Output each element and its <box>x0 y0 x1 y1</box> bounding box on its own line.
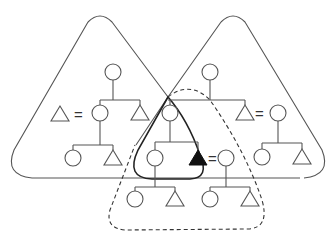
female-node-R-wife <box>270 105 286 121</box>
male-node-B1-m <box>166 191 184 206</box>
male-node-R-grand-m <box>293 149 311 164</box>
male-node-L-spouse <box>51 106 69 121</box>
male-node-L-son <box>131 105 149 120</box>
female-node-M-daughter <box>147 150 163 166</box>
marriage-sign-ego: = <box>208 150 217 167</box>
ego-descendants-boundary <box>109 89 264 230</box>
female-node-ego-wife <box>218 150 234 166</box>
female-node-B1-f <box>127 191 143 207</box>
female-node-L-daughter <box>92 105 108 121</box>
male-node-R-son <box>236 105 254 120</box>
female-node-R-parent <box>202 64 218 80</box>
female-node-B2-f <box>202 191 218 207</box>
male-node-ego <box>189 150 207 165</box>
male-node-B2-m <box>241 191 259 206</box>
marriage-sign-right: = <box>255 105 264 122</box>
female-node-L-parent <box>105 64 121 80</box>
marriage-sign-left: = <box>74 106 83 123</box>
kinship-diagram: = = = <box>0 0 335 245</box>
female-node-M-mother <box>162 105 178 121</box>
female-node-R-grand-f <box>254 149 270 165</box>
female-node-L-grand-f <box>65 150 81 166</box>
male-node-L-grand-m <box>104 150 122 165</box>
